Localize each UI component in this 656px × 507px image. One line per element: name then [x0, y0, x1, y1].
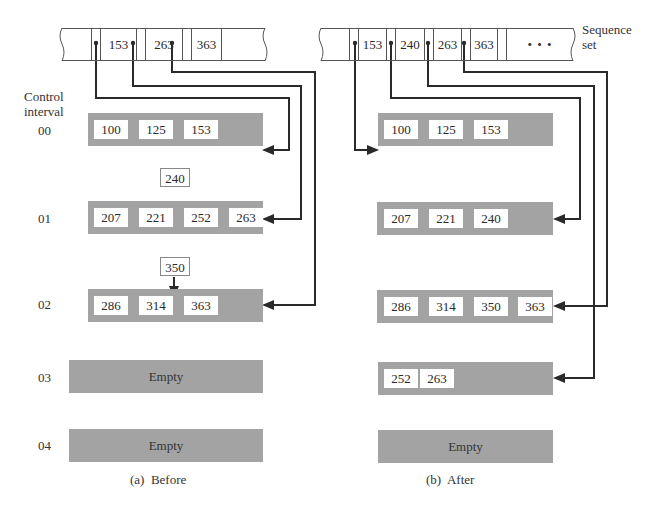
control-interval-before-00: 100 125 153 — [88, 113, 263, 146]
pointer-slot — [91, 29, 100, 60]
index-key: 240 — [395, 29, 424, 60]
ellipsis: • • • — [506, 29, 573, 60]
pointer-slot — [182, 29, 191, 60]
empty-label: Empty — [378, 430, 553, 463]
control-interval-before-02: 286 314 363 — [88, 289, 263, 322]
record: 240 — [474, 209, 508, 228]
record: 125 — [139, 120, 173, 139]
control-interval-after-02: 286 314 350 363 — [377, 290, 553, 323]
control-interval-after-00: 100 125 153 — [378, 113, 553, 146]
record: 363 — [518, 297, 552, 316]
pointer-slot — [349, 29, 358, 60]
record: 252 — [184, 208, 218, 227]
interval-id: 04 — [38, 438, 51, 454]
record: 363 — [184, 296, 218, 315]
record: 221 — [429, 209, 463, 228]
interval-id: 02 — [38, 297, 51, 313]
control-interval-label: Control interval — [24, 89, 64, 119]
empty-label: Empty — [69, 429, 263, 462]
index-key: 363 — [470, 29, 497, 60]
sequence-set-label: Sequence set — [582, 22, 632, 52]
record: 100 — [94, 120, 128, 139]
index-key: 263 — [145, 29, 182, 60]
interval-id: 01 — [38, 211, 51, 227]
record: 314 — [429, 297, 463, 316]
pointer-slot — [386, 29, 395, 60]
free-space — [221, 29, 265, 60]
record: 263 — [420, 369, 454, 388]
sequence-set-after: 153 240 263 363 • • • — [321, 28, 573, 61]
index-key: 363 — [191, 29, 221, 60]
sequence-set-before: 153 263 363 — [62, 28, 265, 61]
caption-after: (b) After — [426, 472, 474, 488]
label-line: interval — [24, 104, 64, 119]
control-interval-after-03: 252 263 — [378, 362, 553, 395]
record: 314 — [139, 296, 173, 315]
caption-before: (a) Before — [130, 472, 186, 488]
control-interval-before-04: Empty — [69, 429, 263, 462]
pointer-slot — [497, 29, 506, 60]
empty-label: Empty — [69, 360, 263, 393]
record: 252 — [384, 369, 418, 388]
record: 286 — [384, 297, 418, 316]
interval-id: 00 — [38, 123, 51, 139]
control-interval-before-01: 207 221 252 263 — [88, 201, 263, 234]
control-interval-after-04: Empty — [378, 430, 553, 463]
control-interval-after-01: 207 221 240 — [377, 202, 553, 235]
record: 350 — [474, 297, 508, 316]
label-line: Control — [24, 89, 64, 104]
pointer-slot — [136, 29, 145, 60]
record: 263 — [229, 208, 263, 227]
pointer-slot — [424, 29, 433, 60]
inserted-record: 350 — [160, 257, 190, 276]
inserted-record: 240 — [160, 168, 190, 187]
record: 207 — [94, 208, 128, 227]
label-line: Sequence — [582, 22, 632, 37]
record: 207 — [384, 209, 418, 228]
record: 153 — [184, 120, 218, 139]
index-key: 263 — [433, 29, 461, 60]
record: 286 — [94, 296, 128, 315]
control-interval-before-03: Empty — [69, 360, 263, 393]
record: 100 — [384, 120, 418, 139]
index-key: 153 — [100, 29, 136, 60]
label-line: set — [582, 37, 632, 52]
record: 221 — [139, 208, 173, 227]
record: 153 — [474, 120, 508, 139]
interval-id: 03 — [38, 370, 51, 386]
pointer-slot — [461, 29, 470, 60]
record: 125 — [429, 120, 463, 139]
index-key: 153 — [358, 29, 386, 60]
